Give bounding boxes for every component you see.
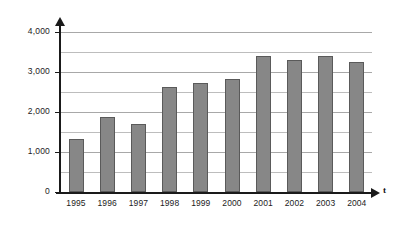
x-tick-label-1996: 1996: [90, 198, 124, 208]
x-tick-label-1995: 1995: [59, 198, 93, 208]
y-tick-mark: [55, 72, 61, 73]
x-tick-label-2001: 2001: [246, 198, 280, 208]
x-axis-arrow-icon: [371, 188, 380, 198]
bar-1995: [69, 139, 84, 192]
x-tick-label-1997: 1997: [121, 198, 155, 208]
x-tick-label-1998: 1998: [153, 198, 187, 208]
gridline: [60, 32, 372, 33]
y-tick-label-0: 0: [4, 186, 50, 196]
gridline: [60, 52, 372, 53]
x-tick-label-1999: 1999: [184, 198, 218, 208]
plot-area: [60, 28, 372, 192]
y-tick-label-2000: 2,000: [4, 106, 50, 116]
bar-chart: t 01,0002,0003,0004,000 1995199619971998…: [0, 0, 398, 232]
bar-2004: [349, 62, 364, 192]
y-tick-mark: [55, 192, 61, 193]
bar-2000: [225, 79, 240, 192]
y-tick-label-4000: 4,000: [4, 26, 50, 36]
x-tick-label-2004: 2004: [340, 198, 374, 208]
bar-2001: [256, 56, 271, 192]
y-tick-mark: [55, 32, 61, 33]
x-tick-label-2000: 2000: [215, 198, 249, 208]
y-tick-mark: [55, 152, 61, 153]
x-tick-label-2002: 2002: [277, 198, 311, 208]
y-axis-line: [59, 24, 61, 194]
bar-2003: [318, 56, 333, 192]
y-tick-mark: [55, 112, 61, 113]
y-tick-label-3000: 3,000: [4, 66, 50, 76]
bar-1996: [100, 117, 115, 192]
bar-2002: [287, 60, 302, 192]
x-axis-label: t: [383, 185, 386, 195]
y-tick-label-1000: 1,000: [4, 146, 50, 156]
bar-1997: [131, 124, 146, 192]
bar-1999: [193, 83, 208, 192]
x-axis-line: [56, 192, 372, 194]
x-tick-label-2003: 2003: [309, 198, 343, 208]
y-axis-arrow-icon: [55, 17, 65, 26]
bar-1998: [162, 87, 177, 192]
